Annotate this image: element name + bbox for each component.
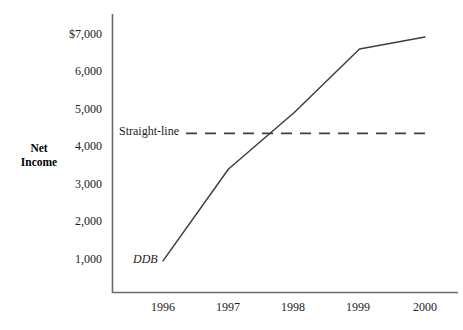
plot-area [0,0,463,330]
series-annotation-ddb: DDB [133,253,158,265]
x-tick-1999: 1999 [328,301,388,313]
series-line-ddb [163,37,425,261]
series-annotation-straight-line: Straight-line [119,125,179,137]
x-tick-1997: 1997 [198,301,258,313]
x-tick-1998: 1998 [263,301,323,313]
x-tick-2000: 2000 [395,301,455,313]
chart-figure: Net Income $7,000 6,000 5,000 4,000 3,00… [0,0,463,330]
x-tick-1996: 1996 [133,301,193,313]
